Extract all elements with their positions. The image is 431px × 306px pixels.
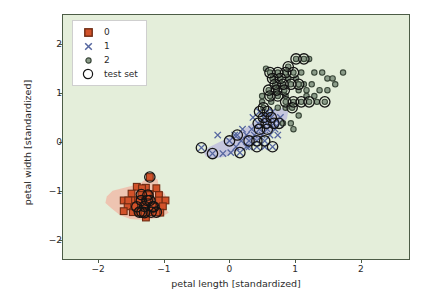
data-point-class-2 — [291, 127, 296, 132]
y-tick-label: 0 — [56, 137, 62, 147]
data-point-class-2 — [330, 76, 335, 81]
x-tick-mark — [361, 260, 362, 263]
x-tick-mark — [98, 260, 99, 263]
data-point-class-2 — [312, 70, 317, 75]
y-tick-label: −2 — [49, 235, 62, 245]
data-point-class-2 — [306, 99, 311, 104]
square-marker-icon — [78, 25, 98, 39]
data-point-class-1 — [254, 144, 260, 150]
legend-item-0: 0 — [78, 25, 138, 39]
y-axis-label: petal width [standardized] — [22, 20, 33, 266]
y-tick-label: 2 — [56, 39, 62, 49]
open-circle-marker-icon — [78, 67, 98, 81]
data-point-class-1 — [226, 138, 232, 144]
x-tick-label: −2 — [91, 264, 104, 274]
data-point-class-2 — [288, 82, 293, 87]
x-axis-label: petal length [standardized] — [62, 278, 410, 289]
data-point-class-2 — [299, 99, 304, 104]
data-point-class-1 — [237, 149, 243, 155]
legend-label-0: 0 — [104, 27, 110, 37]
legend-item-test-set: test set — [78, 67, 138, 81]
data-point-class-2 — [314, 99, 319, 104]
data-point-class-0 — [146, 174, 153, 181]
y-tick-label: 1 — [56, 88, 62, 98]
data-point-class-2 — [288, 121, 293, 126]
y-tick-label: −1 — [49, 186, 62, 196]
figure-canvas: 0 1 2 test set — [0, 0, 431, 306]
data-point-class-2 — [259, 93, 264, 98]
x-tick-label: −1 — [157, 264, 170, 274]
data-point-class-0 — [153, 185, 160, 192]
data-point-class-2 — [317, 87, 322, 92]
x-tick-mark — [229, 260, 230, 263]
legend-item-1: 1 — [78, 39, 138, 53]
data-point-class-2 — [283, 99, 288, 104]
data-point-class-2 — [296, 113, 301, 118]
x-tick-label: 1 — [292, 264, 298, 274]
x-marker-icon — [78, 39, 98, 53]
data-point-class-2 — [325, 76, 330, 81]
legend-label-1: 1 — [104, 41, 110, 51]
data-point-class-1 — [269, 144, 275, 150]
data-point-class-2 — [293, 56, 298, 61]
data-point-class-0 — [120, 208, 127, 215]
data-point-class-1 — [209, 150, 215, 156]
data-point-class-1 — [243, 132, 249, 138]
legend-label-2: 2 — [104, 55, 110, 65]
data-point-class-2 — [296, 82, 301, 87]
data-point-class-2 — [301, 56, 306, 61]
legend: 0 1 2 test set — [72, 20, 147, 86]
data-point-class-2 — [296, 87, 301, 92]
circle-marker-icon — [78, 53, 98, 67]
x-tick-mark — [295, 260, 296, 263]
data-point-class-0 — [128, 190, 135, 197]
data-point-class-2 — [299, 70, 304, 75]
data-point-class-2 — [340, 70, 345, 75]
data-point-class-1 — [215, 132, 221, 138]
data-point-class-1 — [220, 150, 226, 156]
x-tick-mark — [164, 260, 165, 263]
x-tick-label: 0 — [227, 264, 233, 274]
x-tick-label: 2 — [358, 264, 364, 274]
data-point-class-2 — [304, 87, 309, 92]
data-point-class-1 — [275, 132, 281, 138]
data-point-class-1 — [198, 145, 204, 151]
data-point-class-2 — [275, 105, 280, 110]
data-point-class-2 — [333, 82, 338, 87]
data-point-class-0 — [125, 197, 132, 204]
legend-item-2: 2 — [78, 53, 138, 67]
data-point-class-2 — [322, 99, 327, 104]
data-point-class-2 — [309, 82, 314, 87]
data-point-class-2 — [319, 70, 324, 75]
legend-label-test-set: test set — [104, 69, 138, 79]
data-point-class-1 — [228, 149, 234, 155]
data-point-class-2 — [325, 87, 330, 92]
